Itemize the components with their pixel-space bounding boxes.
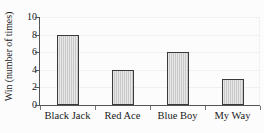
bar-chart: Win (number of times) 0246810 Black Jack… <box>0 0 264 133</box>
y-axis-line <box>39 17 40 106</box>
x-axis-label-blue-boy: Blue Boy <box>158 110 198 123</box>
x-axis-tick-mark <box>40 106 41 110</box>
bar-black-jack <box>57 35 79 105</box>
x-axis-tick-mark <box>150 106 151 110</box>
y-axis-title-label: Win (number of times) <box>4 11 15 100</box>
x-axis-tick-mark <box>95 106 96 110</box>
x-axis-tick-mark <box>205 106 206 110</box>
y-axis-tick-mark <box>35 52 39 53</box>
x-axis-label-my-way: My Way <box>214 110 250 123</box>
x-axis-tick-mark <box>260 106 261 110</box>
x-axis-label-black-jack: Black Jack <box>45 110 91 123</box>
plot-area <box>40 17 260 105</box>
plot-right-edge <box>259 17 260 105</box>
bar-my-way <box>222 79 244 105</box>
bar-blue-boy <box>167 52 189 105</box>
bar-red-ace <box>112 70 134 105</box>
y-axis-title: Win (number of times) <box>0 0 18 112</box>
y-axis-tick-mark <box>35 35 39 36</box>
y-axis-tick-mark <box>35 70 39 71</box>
y-axis-tick-labels: 0246810 <box>18 12 38 108</box>
y-axis-tick-mark <box>35 17 39 18</box>
x-axis-category-labels: Black JackRed AceBlue BoyMy Way <box>40 110 260 130</box>
y-axis-tick-mark <box>35 105 39 106</box>
gridline <box>40 17 260 18</box>
x-axis-label-red-ace: Red Ace <box>105 110 141 123</box>
y-axis-tick-mark <box>35 87 39 88</box>
